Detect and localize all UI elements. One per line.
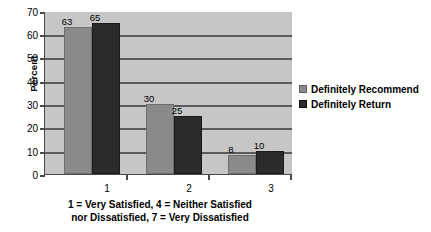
bar-value-return-2: 25	[163, 105, 191, 116]
legend-item-recommend: Definitely Recommend	[299, 83, 419, 95]
bar-return-3	[256, 151, 284, 174]
legend-label: Definitely Recommend	[311, 84, 419, 95]
y-tick-label: 70	[10, 7, 38, 18]
bar-value-return-1: 65	[81, 12, 109, 23]
x-tick-label: 1	[87, 183, 127, 194]
legend-swatch-icon	[299, 100, 307, 108]
bar-recommend-1	[64, 27, 92, 174]
legend-label: Definitely Return	[311, 99, 391, 110]
bar-return-1	[92, 23, 120, 174]
bar-value-recommend-3: 8	[217, 144, 245, 155]
legend-item-return: Definitely Return	[299, 98, 419, 110]
y-tick-label: 0	[10, 170, 38, 181]
x-axis-caption-line-1: 1 = Very Satisfied, 4 = Neither Satisfie…	[20, 199, 300, 212]
y-axis-title: Percent	[28, 39, 39, 109]
bar-recommend-3	[228, 155, 256, 174]
bar-return-2	[174, 116, 202, 174]
bar-value-recommend-2: 30	[135, 93, 163, 104]
y-tick-label: 10	[10, 147, 38, 158]
y-tick-label: 30	[10, 100, 38, 111]
x-tick-mark	[126, 175, 128, 180]
legend: Definitely Recommend Definitely Return	[299, 83, 419, 113]
legend-swatch-icon	[299, 85, 307, 93]
x-axis-caption-line-2: nor Dissatisfied, 7 = Very Dissatisfied	[20, 212, 300, 225]
x-tick-mark	[208, 175, 210, 180]
y-tick-label: 40	[10, 77, 38, 88]
x-tick-mark	[290, 175, 292, 180]
y-tick-label: 50	[10, 53, 38, 64]
y-tick-mark	[40, 175, 45, 177]
bar-value-return-3: 10	[245, 140, 273, 151]
y-tick-label: 60	[10, 30, 38, 41]
y-tick-label: 20	[10, 123, 38, 134]
x-tick-label: 2	[169, 183, 209, 194]
x-axis-caption: 1 = Very Satisfied, 4 = Neither Satisfie…	[20, 199, 300, 224]
bar-value-recommend-1: 63	[53, 16, 81, 27]
bar-chart: Percent 70 60 50 40 30 20 10 0 63 65 30 …	[0, 0, 431, 232]
x-tick-label: 3	[251, 183, 291, 194]
